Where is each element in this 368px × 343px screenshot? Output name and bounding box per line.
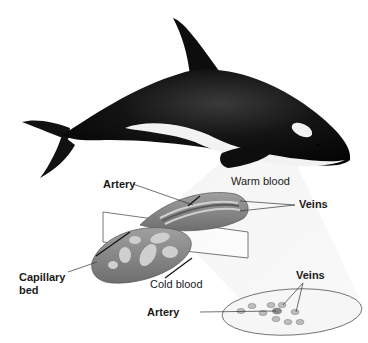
label-veins-top: Veins <box>299 198 328 210</box>
label-veins-bottom: Veins <box>296 269 325 281</box>
label-cold-blood: Cold blood <box>150 278 203 290</box>
label-warm-blood: Warm blood <box>231 175 290 187</box>
eye <box>317 144 320 147</box>
label-capillary-bed-line2: bed <box>19 284 39 296</box>
tail-fluke-lower <box>40 135 75 178</box>
orca-body <box>62 70 350 166</box>
label-artery-top: Artery <box>103 178 135 190</box>
dorsal-fin <box>173 18 220 76</box>
label-artery-bottom: Artery <box>147 306 179 318</box>
orca-illustration <box>22 18 350 178</box>
label-capillary-bed-line1: Capillary <box>19 271 65 283</box>
orca-heat-exchange-diagram <box>0 0 368 343</box>
